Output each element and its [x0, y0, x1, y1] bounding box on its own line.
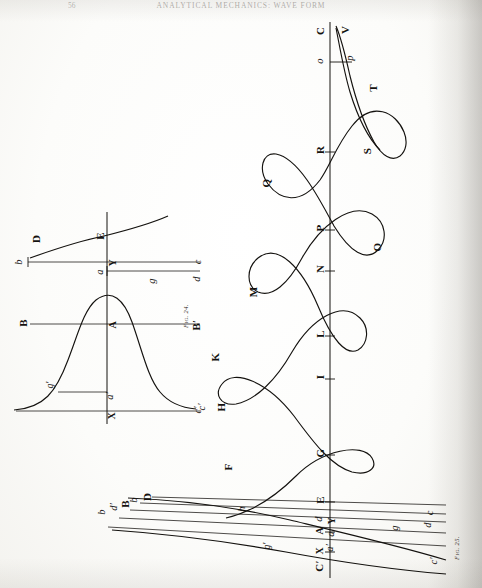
label-fig25-S: S [362, 148, 373, 154]
label-fig25-d-right: d [423, 522, 434, 527]
label-fig25-C-prime: C′ [314, 560, 325, 571]
label-fig25-H: H [216, 403, 227, 412]
label-fig25-g: g [390, 525, 401, 530]
label-fig24-A: A [108, 321, 118, 328]
label-fig25-T: T [368, 84, 379, 92]
label-fig25-X: X [315, 547, 325, 554]
label-fig25-N: N [315, 265, 326, 273]
label-fig25-M: M [248, 287, 259, 298]
label-fig24-a: a [95, 269, 106, 274]
label-fig25-B: B [120, 500, 131, 508]
label-fig25-o: o [315, 58, 326, 63]
label-fig25-b-lower: b [97, 509, 108, 514]
label-fig25-a: a [326, 531, 337, 536]
label-fig24-D: D [31, 235, 42, 243]
fig-25-caption: Fig. 25. [454, 536, 461, 560]
label-fig25-p: p [345, 55, 356, 60]
label-fig24-a-prime: a′ [105, 392, 116, 400]
label-fig25-c-prime-upper: c′ [197, 404, 208, 411]
label-fig25-g-prime: g′ [263, 543, 273, 550]
scanned-page: 56 ANALYTICAL MECHANICS: WAVE FORM [0, 0, 482, 588]
label-fig25-V: V [340, 26, 351, 34]
label-fig24-B-prime: B′ [191, 320, 202, 331]
label-fig24-d: d [192, 276, 203, 281]
label-fig25-d: d [314, 516, 325, 521]
label-fig24-c: c [193, 260, 204, 265]
label-fig25-O: O [372, 243, 383, 252]
label-fig24-B: B [18, 319, 29, 327]
fig25-wave-train [218, 26, 406, 518]
label-fig25-I: I [315, 375, 326, 379]
label-fig25-E: E [315, 496, 326, 504]
plate-artwork [0, 0, 482, 588]
label-fig25-c: c [425, 511, 436, 516]
label-fig24-E: E [95, 232, 106, 240]
fig25-rule-B-Y [130, 510, 446, 522]
label-fig24-g-prime: g′ [46, 382, 56, 389]
label-fig25-C: C [315, 27, 326, 35]
label-fig25-P: P [315, 225, 326, 232]
label-fig24-Y: Y [108, 259, 118, 266]
label-fig25-Y: Y [327, 517, 337, 524]
label-fig25-L: L [315, 330, 326, 338]
label-fig25-Q: Q [261, 179, 272, 188]
fig-25-group [108, 22, 446, 578]
label-fig24-g: g [147, 278, 158, 283]
label-fig25-a-prime: a′ [325, 544, 336, 552]
label-fig25-D: D [142, 493, 153, 501]
label-fig24-b: b [14, 259, 25, 264]
label-fig25-G: G [315, 449, 326, 458]
label-fig25-A: A [315, 527, 325, 534]
label-fig25-K: K [210, 353, 221, 362]
label-fig25-R: R [315, 146, 326, 154]
fig-24-caption: Fig. 24. [183, 304, 190, 328]
label-fig24-X: X [107, 412, 117, 419]
label-fig25-c-prime-right: c′ [429, 558, 440, 565]
label-fig25-h: h [237, 506, 248, 511]
label-fig25-d-prime: d′ [109, 503, 120, 511]
label-fig25-F: F [223, 464, 234, 471]
